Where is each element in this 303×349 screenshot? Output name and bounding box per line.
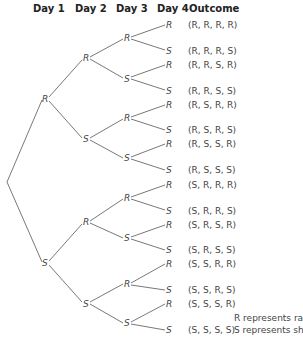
outcome-15: (S, S, S, R) — [188, 299, 236, 309]
outcome-7: (R, S, S, R) — [188, 139, 236, 149]
node-day2-1: R — [83, 53, 89, 63]
node-day1-s: S — [42, 258, 48, 268]
outcome-2: (R, R, R, S) — [188, 46, 237, 56]
node-day4-5: R — [166, 100, 172, 110]
node-day4-13: R — [166, 259, 172, 269]
outcome-1: (R, R, R, R) — [188, 20, 237, 30]
node-day4-11: R — [166, 220, 172, 230]
node-day4-10: S — [166, 206, 172, 216]
node-day4-14: S — [166, 285, 172, 295]
outcome-13: (S, S, R, R) — [188, 259, 236, 269]
node-day4-8: S — [166, 165, 172, 175]
node-day4-12: S — [166, 245, 172, 255]
outcome-8: (R, S, S, S) — [188, 165, 236, 175]
node-day2-3: R — [83, 217, 89, 227]
outcome-11: (S, R, S, R) — [188, 220, 236, 230]
node-day4-9: R — [166, 180, 172, 190]
outcome-5: (R, S, R, R) — [188, 100, 237, 110]
outcome-10: (S, R, R, S) — [188, 206, 236, 216]
outcome-3: (R, R, S, R) — [188, 60, 237, 70]
outcome-9: (S, R, R, R) — [188, 180, 237, 190]
outcome-6: (R, S, R, S) — [188, 125, 236, 135]
node-day4-4: S — [166, 86, 172, 96]
node-day4-6: S — [166, 125, 172, 135]
node-day2-2: S — [83, 134, 89, 144]
node-day4-3: R — [166, 60, 172, 70]
outcome-12: (S, R, S, S) — [188, 245, 236, 255]
node-day3-2: S — [124, 74, 130, 84]
node-day3-5: R — [124, 193, 130, 203]
node-day3-6: S — [124, 233, 130, 243]
node-day3-7: R — [124, 279, 130, 289]
node-day3-8: S — [124, 318, 130, 328]
node-day3-1: R — [124, 33, 130, 43]
legend-rain: R represents rain — [234, 313, 303, 323]
outcome-14: (S, S, R, S) — [188, 285, 236, 295]
node-day4-16: S — [166, 325, 172, 335]
outcome-16: (S, S, S, S) — [188, 325, 235, 335]
node-day4-1: R — [166, 20, 172, 30]
tree-branches — [0, 0, 303, 349]
outcome-4: (R, R, S, S) — [188, 86, 236, 96]
legend-shine: S represents shine — [234, 325, 303, 335]
node-day1-r: R — [42, 94, 48, 104]
node-day3-3: R — [124, 113, 130, 123]
node-day4-7: R — [166, 139, 172, 149]
node-day4-15: R — [166, 299, 172, 309]
node-day4-2: S — [166, 46, 172, 56]
node-day2-4: S — [83, 299, 89, 309]
node-day3-4: S — [124, 153, 130, 163]
